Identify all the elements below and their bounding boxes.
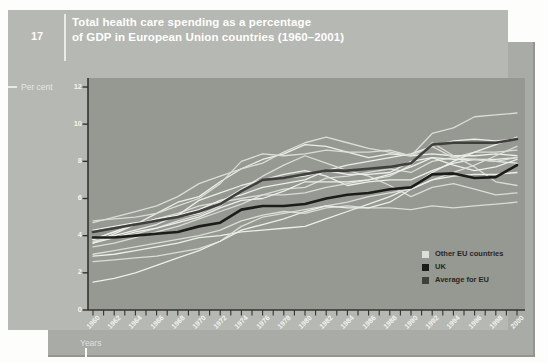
figure-number: 17 bbox=[22, 30, 52, 42]
series-average-for-eu bbox=[93, 139, 517, 232]
y-tick-label-10: 10 bbox=[58, 119, 82, 128]
legend-item-other-eu: Other EU countries bbox=[422, 250, 503, 258]
legend-swatch-uk bbox=[422, 264, 429, 271]
chart-legend: Other EU countries UK Average for EU bbox=[422, 250, 503, 289]
legend-swatch-average-eu bbox=[422, 277, 429, 284]
title-divider bbox=[64, 14, 66, 61]
figure-page: 17 Total health care spending as a perce… bbox=[0, 0, 548, 363]
y-tick-label-6: 6 bbox=[58, 193, 82, 202]
series-netherlands bbox=[93, 158, 517, 240]
margin-dash bbox=[8, 86, 17, 88]
y-tick-label-12: 12 bbox=[58, 82, 82, 91]
y-tick-label-2: 2 bbox=[58, 267, 82, 276]
legend-label-uk: UK bbox=[435, 263, 446, 271]
x-axis-title: Years bbox=[80, 338, 101, 348]
y-tick-label-8: 8 bbox=[58, 156, 82, 165]
y-axis-title-label: Per cent bbox=[21, 82, 53, 92]
legend-item-average-eu: Average for EU bbox=[422, 276, 503, 284]
figure-title-line2: of GDP in European Union countries (1960… bbox=[72, 30, 472, 45]
legend-swatch-other-eu bbox=[422, 251, 429, 258]
legend-item-uk: UK bbox=[422, 263, 503, 271]
legend-label-average-eu: Average for EU bbox=[435, 276, 489, 284]
legend-label-other-eu: Other EU countries bbox=[435, 250, 503, 258]
margin-mark bbox=[85, 348, 87, 359]
y-tick-label-4: 4 bbox=[58, 230, 82, 239]
y-axis-title: Per cent bbox=[8, 82, 53, 92]
figure-title-line1: Total health care spending as a percenta… bbox=[72, 15, 472, 30]
figure-title: Total health care spending as a percenta… bbox=[72, 15, 472, 45]
y-tick-label-0: 0 bbox=[58, 305, 82, 314]
